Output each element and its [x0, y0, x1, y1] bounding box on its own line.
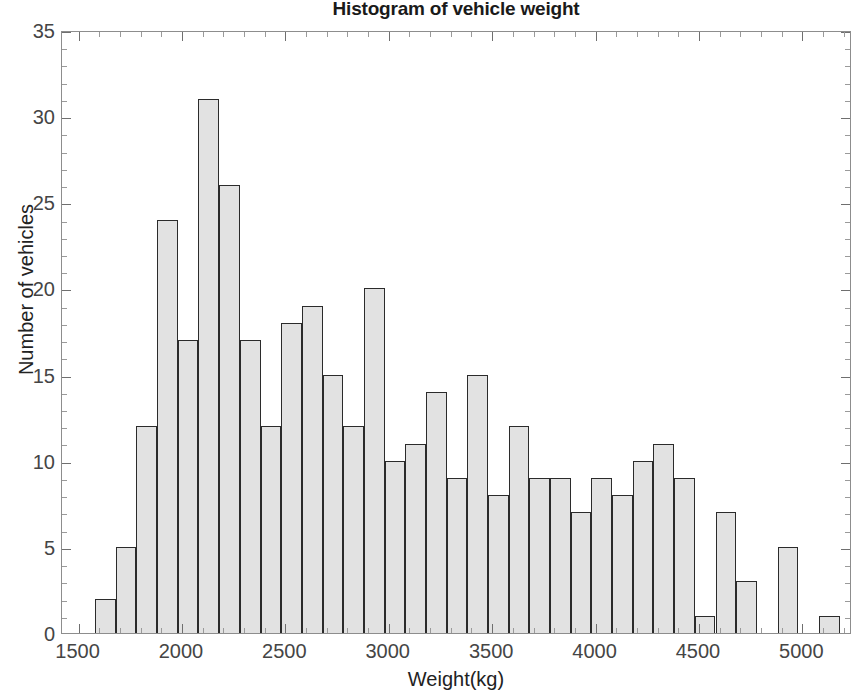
x-axis-minor-tick — [99, 628, 100, 633]
bars-layer — [62, 32, 850, 633]
x-axis-minor-tick — [471, 628, 472, 633]
y-axis-minor-tick — [845, 84, 850, 85]
y-axis-tick-label: 10 — [3, 450, 55, 473]
y-axis-tick — [841, 377, 850, 378]
y-axis-tick-label: 5 — [3, 536, 55, 559]
histogram-bar — [364, 288, 385, 634]
y-axis-minor-tick — [62, 497, 67, 498]
x-axis-tick-label: 3500 — [446, 640, 536, 663]
histogram-bar — [323, 375, 344, 634]
x-axis-minor-tick — [740, 628, 741, 633]
histogram-bar — [674, 478, 695, 634]
histogram-bar — [633, 461, 654, 634]
y-axis-minor-tick — [845, 601, 850, 602]
y-axis-tick — [62, 463, 71, 464]
x-axis-minor-tick — [327, 32, 328, 37]
y-axis-minor-tick — [845, 359, 850, 360]
histogram-bar — [467, 375, 488, 634]
y-axis-tick-label: 30 — [3, 106, 55, 129]
histogram-bar — [261, 426, 282, 634]
x-axis-minor-tick — [782, 628, 783, 633]
y-axis-minor-tick — [845, 497, 850, 498]
y-axis-minor-tick — [845, 411, 850, 412]
x-axis-minor-tick — [678, 628, 679, 633]
x-axis-minor-tick — [203, 628, 204, 633]
y-axis-minor-tick — [62, 101, 67, 102]
y-axis-tick — [62, 118, 71, 119]
y-axis-minor-tick — [62, 359, 67, 360]
x-axis-minor-tick — [244, 628, 245, 633]
y-axis-minor-tick — [62, 273, 67, 274]
x-axis-minor-tick — [616, 628, 617, 633]
x-axis-minor-tick — [720, 32, 721, 37]
x-axis-tick — [79, 624, 80, 633]
x-axis-minor-tick — [265, 628, 266, 633]
x-axis-minor-tick — [347, 32, 348, 37]
y-axis-minor-tick — [845, 445, 850, 446]
histogram-bar — [343, 426, 364, 634]
histogram-bar — [716, 512, 737, 634]
y-axis-tick — [841, 118, 850, 119]
y-axis-minor-tick — [62, 480, 67, 481]
y-axis-minor-tick — [845, 618, 850, 619]
y-axis-tick — [62, 377, 71, 378]
y-axis-minor-tick — [62, 394, 67, 395]
x-axis-tick-label: 2000 — [136, 640, 226, 663]
y-axis-tick-label: 35 — [3, 20, 55, 43]
y-axis-minor-tick — [62, 49, 67, 50]
x-axis-minor-tick — [823, 32, 824, 37]
x-axis-minor-tick — [451, 32, 452, 37]
x-axis-minor-tick — [637, 32, 638, 37]
histogram-bar — [426, 392, 447, 634]
x-axis-minor-tick — [823, 628, 824, 633]
y-axis-minor-tick — [62, 445, 67, 446]
y-axis-minor-tick — [845, 583, 850, 584]
y-axis-minor-tick — [845, 101, 850, 102]
x-axis-minor-tick — [223, 628, 224, 633]
histogram-bar — [757, 633, 778, 634]
histogram-bar — [591, 478, 612, 634]
y-axis-minor-tick — [845, 135, 850, 136]
y-axis-minor-tick — [845, 49, 850, 50]
x-axis-tick — [699, 32, 700, 41]
x-axis-tick-labels: 15002000250030003500400045005000 — [61, 640, 851, 668]
x-axis-tick — [182, 32, 183, 41]
y-axis-tick — [62, 32, 71, 33]
histogram-bar — [653, 444, 674, 635]
x-axis-minor-tick — [658, 628, 659, 633]
x-axis-tick — [285, 624, 286, 633]
x-axis-minor-tick — [120, 32, 121, 37]
x-axis-minor-tick — [471, 32, 472, 37]
x-axis-minor-tick — [534, 32, 535, 37]
y-axis-minor-tick — [845, 325, 850, 326]
x-axis-tick — [802, 624, 803, 633]
y-axis-tick — [841, 290, 850, 291]
histogram-bar — [302, 306, 323, 634]
x-axis-tick-label: 1500 — [33, 640, 123, 663]
x-axis-minor-tick — [161, 628, 162, 633]
x-axis-minor-tick — [761, 32, 762, 37]
x-axis-minor-tick — [141, 32, 142, 37]
x-axis-tick-label: 3000 — [343, 640, 433, 663]
x-axis-minor-tick — [513, 32, 514, 37]
histogram-bar — [136, 426, 157, 634]
histogram-bar — [116, 547, 137, 634]
y-axis-label: Number of vehicles — [15, 170, 38, 410]
y-axis-minor-tick — [62, 618, 67, 619]
x-axis-tick — [492, 624, 493, 633]
x-axis-tick — [596, 624, 597, 633]
x-axis-tick — [596, 32, 597, 41]
y-axis-minor-tick — [62, 514, 67, 515]
histogram-bar — [219, 185, 240, 634]
x-axis-minor-tick — [637, 628, 638, 633]
histogram-bar — [550, 478, 571, 634]
histogram-bar — [157, 220, 178, 634]
histogram-bar — [798, 633, 819, 634]
y-axis-tick — [841, 549, 850, 550]
y-axis-minor-tick — [845, 187, 850, 188]
chart-title: Histogram of vehicle weight — [61, 0, 851, 20]
y-axis-minor-tick — [845, 222, 850, 223]
histogram-bar — [95, 599, 116, 634]
x-axis-minor-tick — [347, 628, 348, 633]
y-axis-minor-tick — [62, 342, 67, 343]
